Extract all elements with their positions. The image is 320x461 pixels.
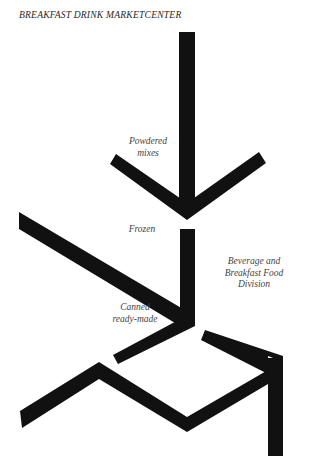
division-vertical (268, 358, 283, 456)
label-frozen: Frozen (112, 224, 172, 236)
label-division: Beverage and Breakfast Food Division (216, 256, 292, 291)
label-canned-ready-made: Canned ready-made (100, 302, 170, 325)
label-powdered-mixes: Powdered mixes (118, 136, 178, 159)
powdered-mixes-arrow (110, 32, 266, 220)
powdered-stem (179, 32, 195, 208)
zigzag-line (20, 362, 268, 432)
